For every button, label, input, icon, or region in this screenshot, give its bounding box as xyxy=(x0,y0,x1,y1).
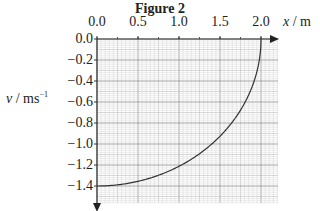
chart-plot-area xyxy=(0,0,320,211)
y-tick-label: −0.8 xyxy=(68,115,93,131)
y-tick-label: −1.2 xyxy=(68,157,93,173)
y-tick-label: −0.6 xyxy=(68,94,93,110)
x-axis-unit: m xyxy=(300,14,311,29)
y-tick-label: −1.0 xyxy=(68,136,93,152)
y-axis-label: v / ms−1 xyxy=(6,90,48,107)
y-tick-label: 0.0 xyxy=(76,31,94,47)
y-tick-label: −0.2 xyxy=(68,52,93,68)
y-tick-label: −0.4 xyxy=(68,73,93,89)
y-axis-unit-exponent: −1 xyxy=(39,90,48,99)
x-tick-label: 1.0 xyxy=(170,14,188,30)
y-axis-arrow-icon xyxy=(93,203,101,211)
x-axis-label: x / m xyxy=(283,14,311,30)
x-tick-label: 1.5 xyxy=(211,14,229,30)
x-tick-label: 2.0 xyxy=(252,14,270,30)
x-tick-label: 0.0 xyxy=(88,14,106,30)
y-axis-var: v xyxy=(6,91,12,106)
y-axis-unit: ms xyxy=(23,91,39,106)
y-tick-label: −1.4 xyxy=(68,178,93,194)
x-axis-var: x xyxy=(283,14,289,29)
x-tick-label: 0.5 xyxy=(129,14,147,30)
